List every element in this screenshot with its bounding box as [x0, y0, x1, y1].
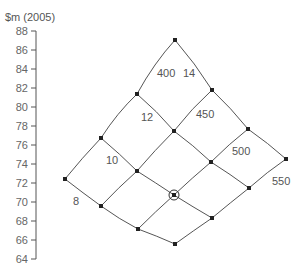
line-14	[175, 40, 286, 159]
node	[136, 227, 140, 231]
label-550: 550	[272, 175, 290, 187]
label-8: 8	[73, 195, 79, 207]
node	[246, 127, 250, 131]
node	[99, 136, 103, 140]
y-tick-label: 88	[16, 25, 28, 37]
node	[173, 38, 177, 42]
label-10: 10	[106, 154, 118, 166]
node	[247, 186, 251, 190]
node	[209, 160, 213, 164]
label-400: 400	[157, 67, 175, 79]
y-tick-label: 86	[16, 44, 28, 56]
line-500	[138, 129, 248, 229]
y-tick-label: 78	[16, 120, 28, 132]
node	[99, 204, 103, 208]
node	[63, 177, 67, 181]
label-14: 14	[183, 67, 195, 79]
line-550	[175, 159, 286, 244]
node	[135, 169, 139, 173]
y-tick-label: 66	[16, 234, 28, 246]
line-10	[101, 138, 212, 218]
node	[210, 88, 214, 92]
y-axis	[31, 31, 36, 259]
y-tick-label: 82	[16, 82, 28, 94]
node	[284, 157, 288, 161]
y-tick-label: 64	[16, 253, 28, 265]
node	[172, 129, 176, 133]
line-400	[65, 40, 175, 179]
label-12: 12	[141, 111, 153, 123]
y-tick-label: 84	[16, 63, 28, 75]
label-450: 450	[196, 108, 214, 120]
y-tick-labels: 88 86 84 82 80 78 76 74 72 70 68 66 64	[16, 25, 28, 265]
node	[172, 193, 176, 197]
line-8	[65, 179, 175, 244]
y-tick-label: 70	[16, 196, 28, 208]
y-tick-label: 80	[16, 101, 28, 113]
grid-lines	[65, 40, 286, 244]
y-tick-label: 72	[16, 177, 28, 189]
node	[210, 216, 214, 220]
y-tick-label: 68	[16, 215, 28, 227]
y-tick-label: 74	[16, 158, 28, 170]
chart-canvas: 88 86 84 82 80 78 76 74 72 70 68 66 64	[0, 0, 305, 274]
label-500: 500	[232, 145, 250, 157]
node	[135, 92, 139, 96]
y-tick-label: 76	[16, 139, 28, 151]
node	[173, 242, 177, 246]
